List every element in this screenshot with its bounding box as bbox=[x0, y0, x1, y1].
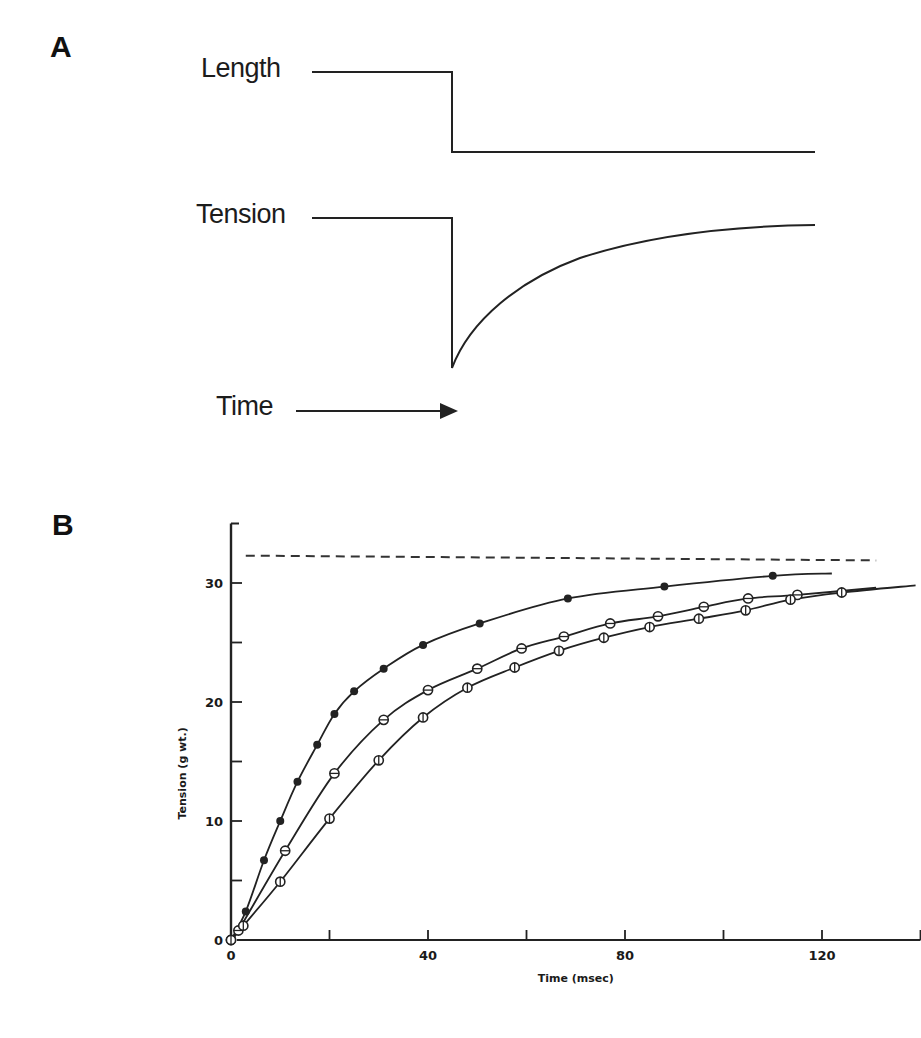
panel-a-traces bbox=[296, 72, 815, 411]
data-point-filled bbox=[330, 710, 338, 718]
x-tick-label: 40 bbox=[419, 948, 437, 963]
data-point-filled bbox=[380, 665, 388, 673]
data-point-filled bbox=[313, 741, 321, 749]
y-tick-label: 30 bbox=[205, 576, 223, 591]
x-tick-label: 0 bbox=[226, 948, 235, 963]
data-point-filled bbox=[293, 778, 301, 786]
panel-b-curves bbox=[231, 573, 916, 940]
curve-circle-vbar bbox=[231, 585, 916, 940]
y-tick-label: 0 bbox=[214, 933, 223, 948]
data-point-filled bbox=[260, 856, 268, 864]
data-point-filled bbox=[660, 583, 668, 591]
dashed-reference bbox=[246, 556, 876, 561]
y-tick-label: 20 bbox=[205, 695, 223, 710]
data-point-filled bbox=[419, 641, 427, 649]
data-point-filled bbox=[564, 594, 572, 602]
figure-canvas: 010203004080120Time (msec)Tension (g wt.… bbox=[0, 0, 921, 1038]
x-tick-label: 120 bbox=[808, 948, 835, 963]
x-axis-title: Time (msec) bbox=[538, 972, 614, 985]
data-point-filled bbox=[350, 687, 358, 695]
x-tick-label: 80 bbox=[616, 948, 634, 963]
y-tick-label: 10 bbox=[205, 814, 223, 829]
panel-b-axes bbox=[231, 524, 921, 943]
data-point-filled bbox=[476, 619, 484, 627]
data-point-filled bbox=[769, 572, 777, 580]
curve-filled-circle bbox=[231, 573, 832, 940]
tension-trace bbox=[312, 218, 815, 368]
time-arrow-head-icon bbox=[440, 403, 458, 419]
panel-b-labels: 010203004080120Time (msec)Tension (g wt.… bbox=[176, 576, 836, 985]
asymptote-dashed-line bbox=[246, 556, 876, 561]
length-trace bbox=[312, 72, 815, 152]
data-point-filled bbox=[276, 817, 284, 825]
curve-circle-hbar bbox=[231, 588, 876, 941]
data-point-filled bbox=[242, 907, 250, 915]
y-axis-title: Tension (g wt.) bbox=[176, 727, 189, 819]
panel-b-markers bbox=[226, 572, 846, 945]
